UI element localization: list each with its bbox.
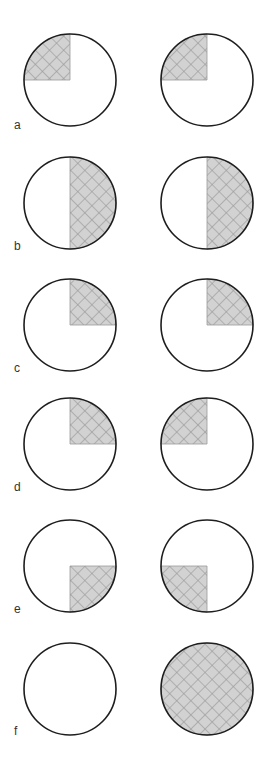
circle-left <box>24 34 116 126</box>
figure-rows: abcdef <box>14 34 253 738</box>
row-d: d <box>14 398 253 494</box>
circle-right <box>161 34 253 126</box>
venn-circle-figure: abcdef <box>0 0 272 766</box>
row-label: d <box>14 480 21 494</box>
row-label: a <box>14 118 21 132</box>
circle-left <box>24 279 116 371</box>
shaded-region-right-half <box>207 157 253 249</box>
circle-right <box>161 398 253 490</box>
row-label: b <box>14 239 21 253</box>
circle-left <box>24 157 116 249</box>
row-f: f <box>14 643 253 738</box>
circle-right <box>161 643 253 735</box>
row-a: a <box>14 34 253 132</box>
row-e: e <box>14 520 253 616</box>
circle-right <box>161 279 253 371</box>
circle-right <box>161 520 253 612</box>
circle-left <box>24 643 116 735</box>
circle-outline <box>24 643 116 735</box>
circle-left <box>24 520 116 612</box>
circle-right <box>161 157 253 249</box>
row-label: e <box>14 602 21 616</box>
row-b: b <box>14 157 253 253</box>
row-label: f <box>14 724 18 738</box>
circle-left <box>24 398 116 490</box>
shaded-region-right-half <box>70 157 116 249</box>
row-label: c <box>14 361 20 375</box>
row-c: c <box>14 279 253 375</box>
